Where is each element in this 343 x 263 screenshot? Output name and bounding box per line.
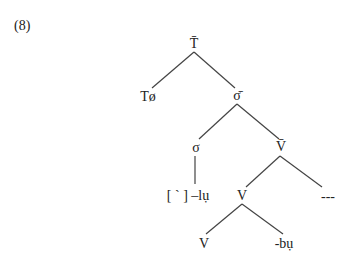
node-bu: -bụ (275, 236, 294, 252)
edge-vbar-ellipsis (280, 156, 322, 187)
edge-sigmabar-sigma (199, 104, 237, 139)
node-sigma: σ (192, 140, 200, 156)
edge-sigmabar-vbar (237, 104, 279, 139)
edge-tbar-sigmabar (194, 52, 235, 88)
syntax-tree-diagram: (8) T̄ Tø σ̄ σ V̄ [ ` ] –lụ V --- V -bụ (0, 0, 343, 263)
node-v-mid: V (237, 188, 247, 204)
edge-tbar-tnull (152, 52, 194, 88)
edge-vmid-vlow (206, 204, 242, 234)
node-tone-lu: [ ` ] –lụ (167, 188, 209, 204)
node-v-low: V (199, 236, 209, 252)
tree-edges (0, 0, 343, 263)
node-ellipsis: --- (321, 189, 335, 205)
node-t-null: Tø (140, 89, 156, 105)
node-v-bar: V̄ (276, 139, 286, 155)
edge-vmid-bu (242, 204, 283, 234)
edge-vbar-vmid (246, 156, 280, 187)
node-t-bar: T̄ (190, 36, 199, 52)
node-sigma-bar: σ̄ (233, 88, 241, 104)
